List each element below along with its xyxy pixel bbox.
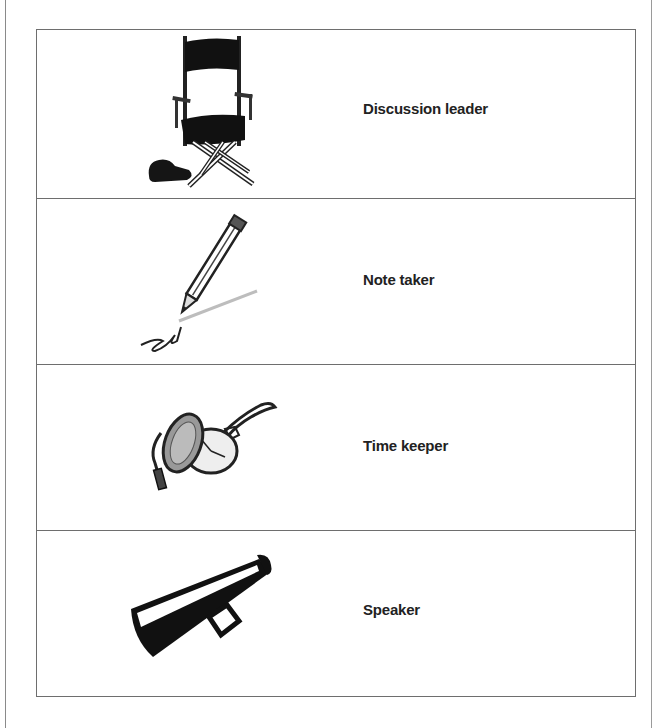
role-row-time-keeper: Time keeper [37,364,635,530]
role-label: Discussion leader [363,100,488,117]
directors-chair-icon [145,34,275,190]
pocket-watch-icon [141,393,281,493]
page-border-left [5,0,6,728]
role-row-discussion-leader: Discussion leader [37,30,635,198]
role-label: Speaker [363,601,420,618]
role-label: Note taker [363,271,434,288]
role-row-speaker: Speaker [37,530,635,696]
roles-card: Discussion leader Note taker [36,29,636,697]
pencil-icon [137,211,267,356]
role-row-note-taker: Note taker [37,198,635,364]
megaphone-icon [123,547,283,677]
role-label: Time keeper [363,437,448,454]
page-border-right [651,0,652,728]
